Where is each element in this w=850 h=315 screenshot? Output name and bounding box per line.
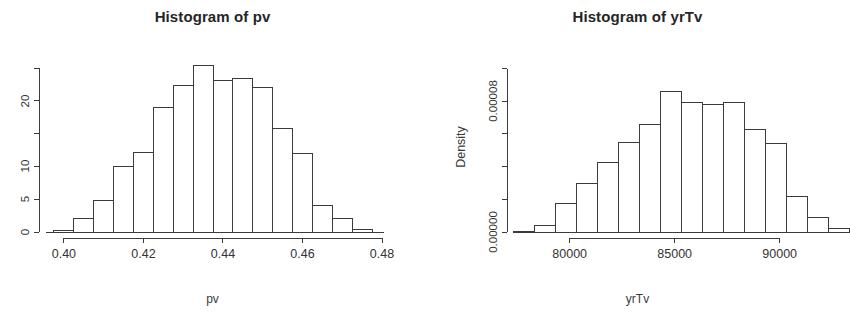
histogram-bar — [765, 144, 786, 232]
histogram-bars — [54, 66, 372, 232]
histogram-panel-pv: Histogram of pv pv 0.400.420.440.460.480… — [0, 0, 425, 315]
histogram-bar — [253, 88, 273, 232]
x-axis-title-yrtv: yrTv — [425, 292, 850, 306]
histogram-bar — [74, 218, 94, 232]
histogram-bar — [153, 108, 173, 232]
x-tick-label: 0.40 — [24, 247, 104, 261]
histogram-bar — [293, 153, 313, 232]
histogram-bar — [133, 152, 153, 232]
x-tick-label: 0.48 — [342, 247, 422, 261]
histogram-bar — [193, 66, 213, 232]
histogram-bar — [660, 91, 681, 232]
x-axis — [64, 238, 382, 243]
x-axis-title-pv: pv — [0, 292, 425, 306]
histogram-bar — [213, 80, 233, 232]
histogram-bars — [513, 91, 849, 232]
y-axis — [34, 68, 39, 232]
histogram-bar — [597, 163, 618, 232]
y-tick-label: 5 — [19, 196, 31, 202]
histogram-bar — [332, 219, 352, 232]
histogram-bar — [639, 125, 660, 232]
y-axis — [502, 69, 507, 232]
x-tick-label: 0.42 — [103, 247, 183, 261]
histogram-bar — [744, 130, 765, 232]
x-tick-label: 0.44 — [183, 247, 263, 261]
x-tick-label: 85000 — [635, 247, 715, 261]
histogram-bar — [576, 184, 597, 232]
histogram-bar — [828, 228, 849, 232]
y-tick-label: 0.00000 — [487, 211, 499, 253]
y-tick-label: 0.00008 — [487, 80, 499, 122]
x-tick-label: 80000 — [530, 247, 610, 261]
y-tick-label: 10 — [19, 160, 31, 173]
y-tick-label: 20 — [19, 95, 31, 108]
histogram-bar — [723, 103, 744, 232]
histogram-bar — [114, 167, 134, 233]
x-tick-label: 90000 — [740, 247, 820, 261]
histogram-bar — [312, 205, 332, 232]
histogram-bar — [94, 201, 114, 232]
y-tick-label: 0 — [19, 229, 31, 235]
histogram-svg-pv — [0, 0, 425, 315]
y-axis-title-yrtv: Density — [454, 107, 468, 187]
histogram-bar — [173, 85, 193, 232]
histogram-svg-yrtv — [425, 0, 850, 315]
histogram-bar — [681, 102, 702, 232]
histogram-bar — [618, 143, 639, 232]
x-tick-label: 0.46 — [262, 247, 342, 261]
histogram-bar — [786, 196, 807, 232]
histogram-panel-yrtv: Histogram of yrTv yrTv Density 800008500… — [425, 0, 850, 315]
x-axis — [570, 238, 780, 243]
histogram-bar — [702, 105, 723, 233]
histogram-bar — [534, 225, 555, 232]
histogram-bar — [555, 203, 576, 232]
histogram-bar — [807, 217, 828, 232]
histogram-bar — [233, 79, 253, 232]
histogram-bar — [273, 129, 293, 233]
